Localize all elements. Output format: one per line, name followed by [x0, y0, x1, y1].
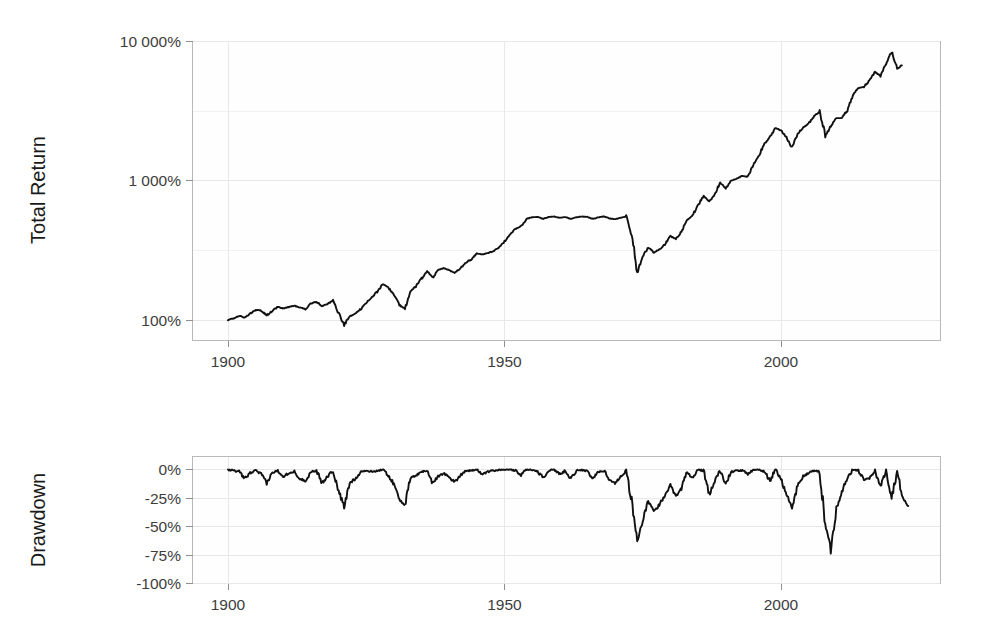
- top-ytick-100: 100%: [141, 312, 181, 329]
- top-xtick-1900: 1900: [211, 353, 246, 370]
- top-xtick-2000: 2000: [764, 353, 799, 370]
- bottom-xtick-1900: 1900: [211, 596, 246, 613]
- bottom-panel-x-tickmarks: [228, 584, 781, 591]
- bottom-ytick-25: -25%: [145, 490, 181, 507]
- bottom-xtick-1950: 1950: [487, 596, 522, 613]
- stock-chart-figure: 10 000% 1 000% 100% 1900 1950 2000 Total…: [0, 0, 989, 620]
- top-panel-y-tickmarks: [186, 42, 193, 321]
- bottom-panel-frame: [193, 457, 941, 584]
- top-panel-y-axis-title: Total Return: [27, 136, 49, 244]
- bottom-xtick-2000: 2000: [764, 596, 799, 613]
- chart-svg: 10 000% 1 000% 100% 1900 1950 2000 Total…: [0, 0, 989, 620]
- bottom-ytick-100: -100%: [136, 575, 181, 592]
- top-ytick-10000: 10 000%: [120, 33, 181, 50]
- bottom-panel: 0% -25% -50% -75% -100% 1900 1950 2000 D…: [27, 457, 941, 614]
- bottom-ytick-75: -75%: [145, 547, 181, 564]
- top-panel-frame: [193, 42, 941, 341]
- bottom-ytick-50: -50%: [145, 518, 181, 535]
- top-panel-x-tickmarks: [228, 341, 781, 348]
- bottom-panel-y-tickmarks: [186, 470, 193, 584]
- top-xtick-1950: 1950: [487, 353, 522, 370]
- top-panel: 10 000% 1 000% 100% 1900 1950 2000 Total…: [27, 33, 941, 370]
- bottom-panel-y-axis-title: Drawdown: [27, 473, 49, 567]
- top-ytick-1000: 1 000%: [128, 172, 181, 189]
- bottom-ytick-0: 0%: [159, 461, 182, 478]
